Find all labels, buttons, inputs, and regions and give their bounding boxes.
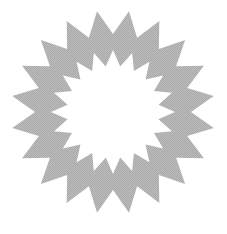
starburst-ring (12, 11, 213, 212)
starburst-icon (0, 0, 227, 234)
starburst-graphic (0, 0, 227, 234)
